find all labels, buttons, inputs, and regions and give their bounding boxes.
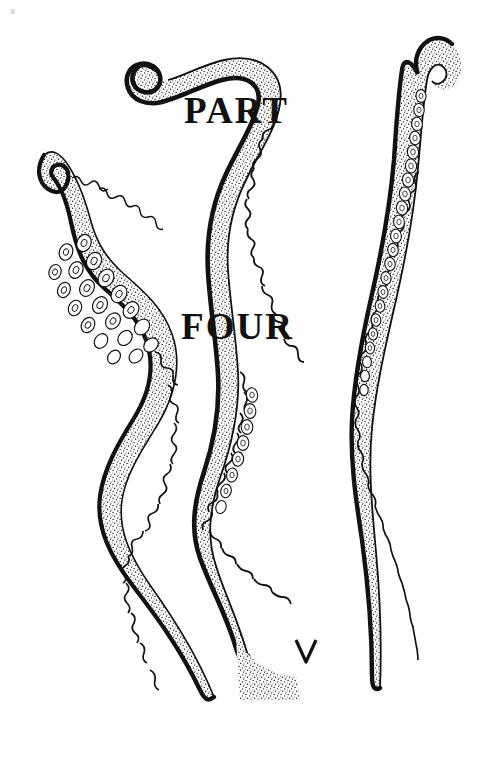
part-number-word: FOUR bbox=[0, 308, 481, 345]
base-notch bbox=[296, 640, 316, 662]
left-tentacle bbox=[39, 152, 214, 700]
part-title-page: PART FOUR bbox=[0, 0, 487, 759]
tentacle-bases bbox=[206, 640, 360, 716]
right-tentacle bbox=[352, 38, 462, 689]
part-title-word: PART bbox=[0, 92, 480, 129]
